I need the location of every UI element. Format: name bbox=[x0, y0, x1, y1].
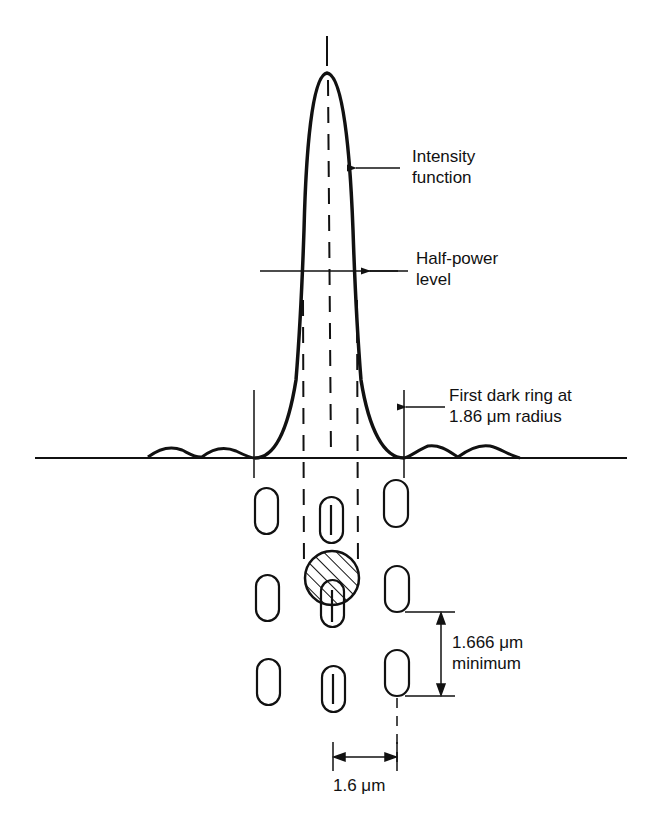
pit-column-left bbox=[255, 488, 280, 705]
track-spacing-label: 1.6 μm bbox=[333, 775, 385, 796]
half-power-label-line1: Half-power bbox=[416, 248, 498, 269]
pit-pitch-label-line2: minimum bbox=[452, 653, 523, 674]
pit-under-spot bbox=[321, 580, 344, 627]
intensity-label-line2: function bbox=[412, 167, 475, 188]
track-spacing-value: 1.6 μm bbox=[333, 775, 385, 796]
intensity-curve bbox=[255, 73, 404, 458]
dark-ring-label-line2: 1.86 μm radius bbox=[449, 406, 572, 427]
pit-pitch-label-line1: 1.666 μm bbox=[452, 632, 523, 653]
intensity-label-line1: Intensity bbox=[412, 146, 475, 167]
projection-left bbox=[303, 300, 304, 570]
pit-pitch-dimension bbox=[405, 612, 455, 696]
half-power-label: Half-power level bbox=[416, 248, 498, 290]
center-axis bbox=[327, 36, 331, 458]
pit-pitch-label: 1.666 μm minimum bbox=[452, 632, 523, 674]
half-power-label-line2: level bbox=[416, 269, 498, 290]
intensity-label: Intensity function bbox=[412, 146, 475, 188]
dark-ring-label: First dark ring at 1.86 μm radius bbox=[449, 385, 572, 427]
side-lobes-right bbox=[404, 446, 520, 458]
side-lobes-left bbox=[148, 448, 255, 458]
projection-right bbox=[357, 300, 358, 570]
pit-column-right bbox=[384, 480, 409, 696]
dark-ring-label-line1: First dark ring at bbox=[449, 385, 572, 406]
